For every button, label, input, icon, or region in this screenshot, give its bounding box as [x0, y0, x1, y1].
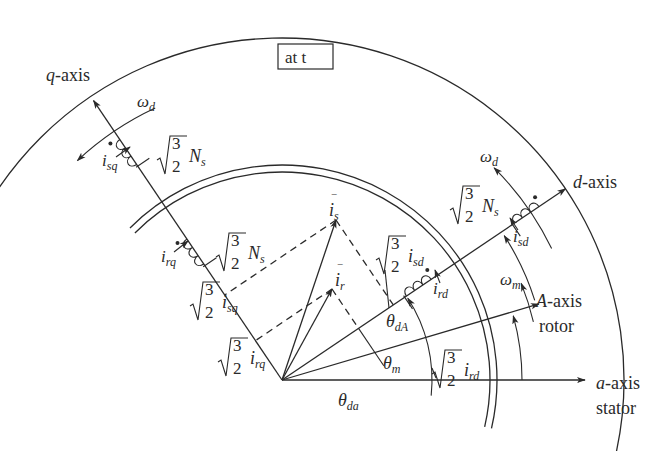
winding-tick-rd: [404, 296, 413, 309]
a-axis-label: a-axis: [596, 373, 640, 393]
sqrt32-isq: 32isq: [190, 280, 238, 322]
winding-coil-rd: [405, 276, 431, 296]
is-q-projection: [225, 220, 336, 295]
sqrt32-isd: 32isd: [376, 234, 425, 276]
coefficient-labels: 32Ns32Ns32Ns32isq32irq32isd32ird: [157, 134, 499, 390]
sqrt32-ird: 32ird: [432, 348, 480, 390]
ir-overbar: ‾: [337, 262, 343, 277]
sqrt32-Ns-sq: 32Ns: [157, 134, 206, 176]
winding-coil-sq: [116, 140, 136, 166]
sqrt32-isd-numerator: 3: [391, 234, 400, 253]
rotor-current-vector: [282, 289, 332, 380]
airgap-arc-inner: [135, 172, 490, 427]
stator-outer-arc: [0, 38, 624, 451]
q-axis-line: [94, 101, 282, 380]
isd-projection-leader: [385, 270, 389, 308]
dq-frame-diagram: at t q-axis d-axis A-axis rotor a-axis s…: [0, 0, 670, 451]
sqrt32-isq-numerator: 3: [205, 280, 214, 299]
sqrt32-isq-denominator: 2: [205, 303, 214, 322]
sqrt32-Ns-rq-term: Ns: [247, 243, 265, 266]
theta-m-label: θm: [383, 353, 401, 376]
sqrt32-Ns-rq-denominator: 2: [231, 254, 240, 273]
sqrt32-irq: 32irq: [218, 336, 265, 378]
sqrt32-Ns-rq-numerator: 3: [231, 231, 240, 250]
sqrt32-isd-denominator: 2: [391, 257, 400, 276]
sqrt32-Ns-sq-numerator: 3: [172, 134, 181, 153]
sqrt32-ird-numerator: 3: [447, 348, 456, 367]
theta-da-label: θda: [338, 390, 359, 413]
omega-d-label-q: ωd: [137, 92, 156, 114]
sqrt32-ird-denominator: 2: [447, 371, 456, 390]
d-axis-label: d-axis: [573, 172, 617, 192]
sqrt32-Ns-sd: 32Ns: [450, 184, 499, 226]
sqrt32-irq-denominator: 2: [233, 359, 242, 378]
isq-label: isq: [102, 151, 117, 173]
q-axis-label: q-axis: [46, 65, 90, 85]
winding-coil-sd: [513, 203, 539, 223]
rotor-label: rotor: [539, 316, 574, 336]
polarity-dot-sd: [533, 195, 537, 199]
polarity-dot-rq: [176, 241, 180, 245]
A-axis-label: A-axis: [535, 291, 582, 311]
theta-da-arrow: [408, 298, 432, 395]
irq-label: irq: [161, 247, 176, 269]
sqrt32-Ns-rq: 32Ns: [216, 231, 265, 273]
winding-tick-rq: [203, 258, 216, 267]
sqrt32-irq-numerator: 3: [233, 336, 242, 355]
winding-tick-sq: [136, 158, 149, 167]
sqrt32-Ns-sq-term: Ns: [188, 146, 206, 169]
sqrt32-isq-term: isq: [222, 292, 238, 315]
polarity-dot-sq: [108, 142, 112, 146]
polarity-dot-rd: [425, 268, 429, 272]
d-axis-line: [282, 189, 566, 380]
ir-d-projection: [332, 289, 359, 328]
ir-q-projection: [255, 289, 332, 341]
isd-label: isd: [513, 227, 529, 249]
sqrt32-isd-term: isd: [408, 246, 425, 269]
sqrt32-Ns-sd-term: Ns: [481, 196, 499, 219]
ird-projection-extension: [359, 328, 384, 365]
theta-dA-label: θdA: [386, 311, 409, 334]
stator-label: stator: [596, 398, 636, 418]
is-overbar: ‾: [331, 192, 337, 207]
omega-m-label: ωm: [500, 270, 521, 292]
sqrt32-Ns-sd-denominator: 2: [465, 207, 474, 226]
stator-current-vector: [282, 220, 336, 380]
sqrt32-Ns-sq-denominator: 2: [172, 157, 181, 176]
sqrt32-Ns-sd-numerator: 3: [465, 184, 474, 203]
winding-coil-rq: [183, 239, 203, 265]
ird-label: ird: [433, 279, 449, 301]
sqrt32-ird-term: ird: [464, 360, 480, 383]
time-instant-label: at t: [285, 48, 307, 67]
A-axis-line: [282, 304, 539, 380]
omega-m-arrow: [521, 283, 533, 322]
theta-m-arrow: [513, 316, 522, 380]
omega-d-label-d: ωd: [480, 147, 499, 169]
